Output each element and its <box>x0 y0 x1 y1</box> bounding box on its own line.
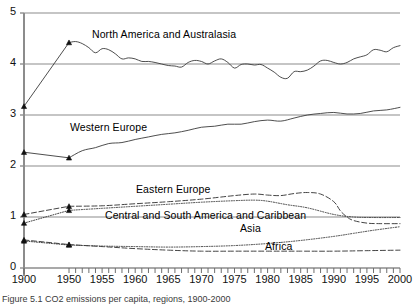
series-line-head <box>24 241 69 245</box>
series-5 <box>21 237 400 251</box>
x-axis-label-1955: 1955 <box>84 273 120 285</box>
y-axis-label-4: 4 <box>0 56 16 68</box>
series-line-head <box>24 206 69 214</box>
series-line-head <box>24 240 69 245</box>
x-axis-label-1960: 1960 <box>117 273 153 285</box>
series-line-head <box>24 43 69 107</box>
series-label-central-and-south-america-and-caribbean: Central and South America and Caribbean <box>105 209 306 221</box>
x-axis-label-1970: 1970 <box>183 273 219 285</box>
series-label-north-america-and-australasia: North America and Australasia <box>92 28 236 40</box>
y-axis-label-2: 2 <box>0 158 16 170</box>
figure-caption: Figure 5.1 CO2 emissions per capita, reg… <box>2 294 407 304</box>
x-axis-label-1965: 1965 <box>150 273 186 285</box>
series-line <box>69 227 400 247</box>
series-4 <box>21 227 400 248</box>
series-label-africa: Africa <box>265 240 292 252</box>
x-axis-label-1985: 1985 <box>283 273 319 285</box>
y-axis-label-0: 0 <box>0 260 16 272</box>
x-axis-label-1980: 1980 <box>250 273 286 285</box>
x-axis-label-1950: 1950 <box>51 273 87 285</box>
series-label-asia: Asia <box>240 222 261 234</box>
series-label-western-europe: Western Europe <box>70 121 147 133</box>
x-axis-label-1900: 1900 <box>6 273 42 285</box>
series-line <box>69 42 400 79</box>
x-axis-label-1995: 1995 <box>349 273 385 285</box>
x-axis-label-1990: 1990 <box>316 273 352 285</box>
x-axis-label-1975: 1975 <box>217 273 253 285</box>
y-axis-label-5: 5 <box>0 5 16 17</box>
data-marker <box>21 221 26 226</box>
series-label-eastern-europe: Eastern Europe <box>136 183 210 195</box>
series-0 <box>21 40 400 109</box>
x-axis-label-2000: 2000 <box>382 273 417 285</box>
y-axis-label-1: 1 <box>0 209 16 221</box>
y-axis-label-3: 3 <box>0 107 16 119</box>
series-line-head <box>24 152 69 158</box>
